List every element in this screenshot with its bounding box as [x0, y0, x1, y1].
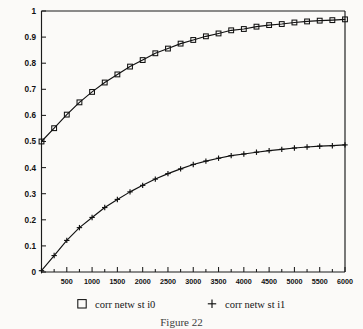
x-tick-label-2: 1000: [84, 277, 100, 286]
x-tick-label-1: 500: [61, 277, 73, 286]
marker-1-15: [228, 153, 233, 158]
series-layer: [39, 17, 348, 273]
legend-marker-open-square-icon: [78, 300, 86, 308]
legend-entry-0[interactable]: corr netw st i0: [78, 299, 156, 310]
x-tick-label-11: 5500: [312, 277, 328, 286]
x-tick-label-3: 1500: [109, 277, 125, 286]
chart-canvas: 00.10.20.30.40.50.60.70.80.91 5001000150…: [0, 0, 363, 329]
y-tick-label-5: 0.5: [25, 137, 37, 146]
x-tick-label-5: 2500: [160, 277, 176, 286]
x-tick-label-8: 4000: [236, 277, 252, 286]
legend-label-0: corr netw st i0: [95, 299, 155, 310]
axes-frame: [42, 11, 346, 272]
marker-1-19: [279, 147, 284, 152]
axis-frame-path: [42, 11, 346, 272]
marker-1-9: [153, 176, 158, 181]
y-tick-label-2: 0.2: [25, 216, 37, 225]
x-tick-label-4: 2000: [135, 277, 151, 286]
y-tick-label-9: 0.9: [25, 33, 37, 42]
y-tick-label-0: 0: [31, 268, 36, 277]
x-tick-label-10: 5000: [286, 277, 302, 286]
marker-1-10: [165, 171, 170, 176]
y-tick-label-8: 0.8: [25, 59, 37, 68]
y-axis-tick-labels: 00.10.20.30.40.50.60.70.80.91: [25, 7, 37, 277]
chart-legend: corr netw st i0corr netw st i1: [78, 299, 286, 310]
legend-marker-plus-icon: [208, 300, 216, 308]
marker-1-14: [216, 156, 221, 161]
x-tick-label-12: 6000: [337, 277, 353, 286]
y-tick-label-3: 0.3: [25, 190, 37, 199]
x-tick-label-9: 4500: [261, 277, 277, 286]
legend-label-1: corr netw st i1: [225, 299, 285, 310]
series-0: [39, 17, 347, 144]
marker-1-12: [191, 162, 196, 167]
y-tick-label-1: 0.1: [25, 242, 37, 251]
y-tick-label-7: 0.7: [25, 85, 37, 94]
y-tick-label-10: 1: [31, 7, 36, 16]
figure-container: 00.10.20.30.40.50.60.70.80.91 5001000150…: [0, 0, 363, 329]
y-tick-label-6: 0.6: [25, 111, 37, 120]
marker-1-16: [241, 151, 246, 156]
legend-entry-1[interactable]: corr netw st i1: [208, 299, 286, 310]
marker-1-7: [127, 189, 132, 194]
marker-1-13: [203, 158, 208, 163]
marker-1-24: [342, 142, 347, 147]
marker-1-21: [304, 144, 309, 149]
series-1: [39, 142, 348, 273]
x-tick-label-6: 3000: [185, 277, 201, 286]
marker-1-22: [317, 143, 322, 148]
marker-1-11: [178, 166, 183, 171]
x-tick-label-7: 3500: [211, 277, 227, 286]
figure-caption: Figure 22: [160, 316, 202, 328]
marker-1-8: [140, 183, 145, 188]
y-tick-label-4: 0.4: [25, 164, 37, 173]
x-axis-tick-labels: 5001000150020002500300035004000450050005…: [61, 277, 353, 286]
marker-1-18: [266, 148, 271, 153]
marker-1-17: [254, 150, 259, 155]
marker-1-20: [292, 145, 297, 150]
marker-1-23: [330, 143, 335, 148]
x-axis-tick-marks: [42, 267, 346, 272]
